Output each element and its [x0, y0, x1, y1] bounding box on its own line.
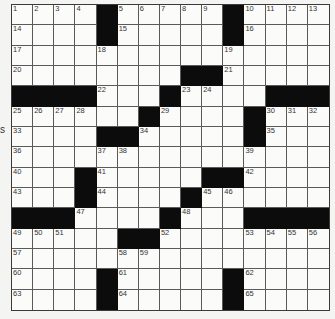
grid-cell[interactable] — [287, 249, 308, 269]
grid-cell[interactable] — [139, 66, 160, 86]
grid-cell[interactable] — [160, 269, 181, 289]
grid-cell[interactable] — [308, 290, 329, 310]
grid-cell[interactable] — [308, 188, 329, 208]
grid-cell[interactable]: 16 — [244, 25, 265, 45]
grid-cell[interactable]: 59 — [139, 249, 160, 269]
grid-cell[interactable] — [308, 249, 329, 269]
grid-cell[interactable]: 23 — [181, 86, 202, 106]
grid-cell[interactable] — [181, 25, 202, 45]
grid-cell[interactable] — [266, 168, 287, 188]
grid-cell[interactable] — [97, 208, 118, 228]
grid-cell[interactable] — [75, 127, 96, 147]
grid-cell[interactable] — [118, 168, 139, 188]
grid-cell[interactable] — [308, 168, 329, 188]
grid-cell[interactable]: 58 — [118, 249, 139, 269]
grid-cell[interactable] — [266, 147, 287, 167]
grid-cell[interactable] — [308, 46, 329, 66]
grid-cell[interactable] — [181, 229, 202, 249]
grid-cell[interactable] — [139, 188, 160, 208]
grid-cell[interactable] — [202, 208, 223, 228]
grid-cell[interactable]: 6 — [139, 5, 160, 25]
grid-cell[interactable] — [97, 107, 118, 127]
grid-cell[interactable] — [287, 290, 308, 310]
grid-cell[interactable] — [75, 249, 96, 269]
grid-cell[interactable]: 48 — [181, 208, 202, 228]
grid-cell[interactable] — [223, 147, 244, 167]
grid-cell[interactable] — [202, 290, 223, 310]
grid-cell[interactable]: 45 — [202, 188, 223, 208]
grid-cell[interactable]: 31 — [287, 107, 308, 127]
grid-cell[interactable] — [139, 290, 160, 310]
grid-cell[interactable]: 43 — [12, 188, 33, 208]
grid-cell[interactable] — [160, 147, 181, 167]
grid-cell[interactable] — [181, 290, 202, 310]
grid-cell[interactable]: 60 — [12, 269, 33, 289]
grid-cell[interactable] — [33, 188, 54, 208]
grid-cell[interactable] — [181, 147, 202, 167]
grid-cell[interactable]: 4 — [75, 5, 96, 25]
grid-cell[interactable]: 50 — [33, 229, 54, 249]
grid-cell[interactable] — [33, 147, 54, 167]
grid-cell[interactable]: 9 — [202, 5, 223, 25]
grid-cell[interactable] — [118, 107, 139, 127]
grid-cell[interactable]: 37 — [97, 147, 118, 167]
grid-cell[interactable]: 11 — [266, 5, 287, 25]
grid-cell[interactable] — [160, 66, 181, 86]
grid-cell[interactable]: 46 — [223, 188, 244, 208]
grid-cell[interactable]: 32 — [308, 107, 329, 127]
grid-cell[interactable] — [160, 188, 181, 208]
grid-cell[interactable] — [266, 290, 287, 310]
grid-cell[interactable] — [202, 229, 223, 249]
grid-cell[interactable]: 54 — [266, 229, 287, 249]
grid-cell[interactable] — [223, 107, 244, 127]
grid-cell[interactable] — [54, 25, 75, 45]
grid-cell[interactable] — [160, 168, 181, 188]
grid-cell[interactable] — [223, 127, 244, 147]
grid-cell[interactable] — [202, 25, 223, 45]
grid-cell[interactable] — [160, 249, 181, 269]
grid-cell[interactable] — [266, 188, 287, 208]
grid-cell[interactable] — [287, 188, 308, 208]
grid-cell[interactable]: 49 — [12, 229, 33, 249]
grid-cell[interactable] — [160, 127, 181, 147]
grid-cell[interactable]: 63 — [12, 290, 33, 310]
grid-cell[interactable] — [181, 46, 202, 66]
grid-cell[interactable]: 56 — [308, 229, 329, 249]
grid-cell[interactable] — [287, 168, 308, 188]
grid-cell[interactable]: 41 — [97, 168, 118, 188]
grid-cell[interactable]: 27 — [54, 107, 75, 127]
grid-cell[interactable] — [54, 269, 75, 289]
grid-cell[interactable] — [97, 249, 118, 269]
grid-cell[interactable]: 51 — [54, 229, 75, 249]
grid-cell[interactable] — [266, 269, 287, 289]
grid-cell[interactable]: 15 — [118, 25, 139, 45]
grid-cell[interactable]: 20 — [12, 66, 33, 86]
grid-cell[interactable] — [54, 147, 75, 167]
grid-cell[interactable]: 25 — [12, 107, 33, 127]
grid-cell[interactable] — [202, 107, 223, 127]
grid-cell[interactable]: 35 — [266, 127, 287, 147]
grid-cell[interactable] — [160, 290, 181, 310]
grid-cell[interactable] — [223, 86, 244, 106]
grid-cell[interactable] — [33, 66, 54, 86]
grid-cell[interactable]: 55 — [287, 229, 308, 249]
grid-cell[interactable] — [287, 46, 308, 66]
grid-cell[interactable] — [75, 147, 96, 167]
grid-cell[interactable]: 52 — [160, 229, 181, 249]
grid-cell[interactable] — [223, 249, 244, 269]
grid-cell[interactable] — [118, 46, 139, 66]
grid-cell[interactable] — [54, 290, 75, 310]
grid-cell[interactable] — [181, 269, 202, 289]
grid-cell[interactable] — [308, 66, 329, 86]
grid-cell[interactable] — [118, 188, 139, 208]
grid-cell[interactable]: 5 — [118, 5, 139, 25]
grid-cell[interactable] — [33, 269, 54, 289]
grid-cell[interactable] — [75, 46, 96, 66]
grid-cell[interactable] — [308, 127, 329, 147]
grid-cell[interactable]: 38 — [118, 147, 139, 167]
grid-cell[interactable]: 21 — [223, 66, 244, 86]
grid-cell[interactable] — [266, 249, 287, 269]
grid-cell[interactable] — [202, 127, 223, 147]
grid-cell[interactable]: 19 — [223, 46, 244, 66]
grid-cell[interactable]: 64 — [118, 290, 139, 310]
